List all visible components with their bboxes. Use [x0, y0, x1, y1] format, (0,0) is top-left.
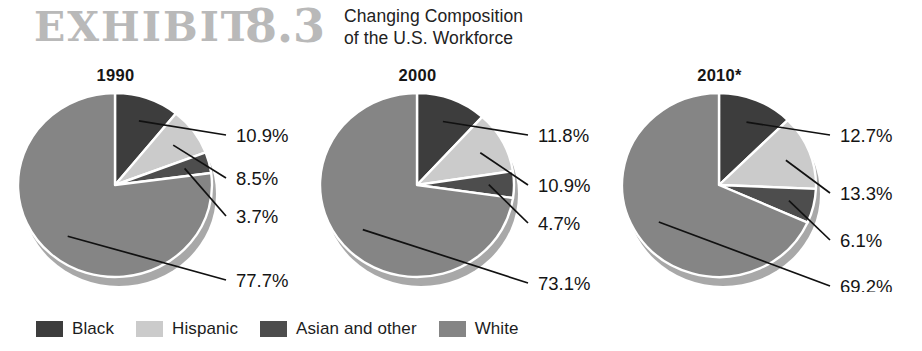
pie-value-label: 10.9% [236, 125, 288, 146]
pie-value-label: 11.8% [538, 125, 589, 146]
legend-swatch-icon [260, 321, 287, 337]
pie-chart: 12.7%13.3%6.1%69.2% [612, 88, 912, 292]
legend-label: Hispanic [172, 319, 238, 339]
exhibit-header: EXHIBIT 8.3 Changing Composition of the … [0, 0, 922, 62]
legend-item: Hispanic [136, 319, 238, 339]
pie-year-label: 2010* [612, 66, 827, 85]
legend-swatch-icon [36, 321, 63, 337]
legend-label: Black [72, 319, 114, 339]
pie-year-label: 1990 [8, 66, 223, 85]
page-title-line-2: of the U.S. Workforce [344, 27, 523, 49]
pie-value-label: 8.5% [236, 168, 278, 189]
pie-value-label: 77.7% [236, 270, 288, 291]
legend-item: Black [36, 319, 114, 339]
legend-item: Asian and other [260, 319, 417, 339]
page-title: Changing Composition of the U.S. Workfor… [344, 5, 523, 49]
pie-chart: 11.8%10.9%4.7%73.1% [310, 88, 610, 292]
chart-legend: BlackHispanicAsian and otherWhite [36, 316, 541, 342]
legend-swatch-icon [136, 321, 163, 337]
pie-value-label: 4.7% [538, 213, 580, 234]
exhibit-number: 8.3 [245, 0, 325, 52]
pie-value-label: 6.1% [840, 230, 882, 251]
legend-label: White [475, 319, 519, 339]
pie-panel-2000: 200011.8%10.9%4.7%73.1% [310, 62, 610, 292]
pie-value-label: 10.9% [538, 175, 590, 196]
legend-swatch-icon [439, 321, 466, 337]
pie-panel-1990: 199010.9%8.5%3.7%77.7% [8, 62, 308, 292]
pie-panel-2010: 2010*12.7%13.3%6.1%69.2% [612, 62, 912, 292]
pie-value-label: 13.3% [840, 183, 892, 204]
page-title-line-1: Changing Composition [344, 5, 523, 27]
pie-value-label: 69.2% [840, 276, 892, 292]
pie-year-label: 2000 [310, 66, 525, 85]
legend-label: Asian and other [296, 319, 417, 339]
pie-value-label: 3.7% [236, 206, 278, 227]
pie-value-label: 12.7% [840, 125, 892, 146]
pie-chart: 10.9%8.5%3.7%77.7% [8, 88, 308, 292]
legend-item: White [439, 319, 519, 339]
exhibit-label: EXHIBIT [34, 4, 253, 50]
pie-value-label: 73.1% [538, 273, 590, 292]
